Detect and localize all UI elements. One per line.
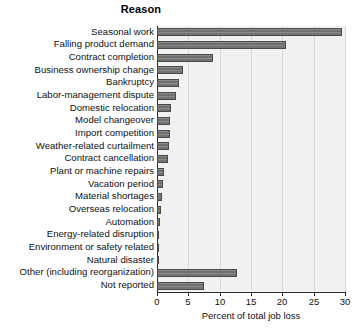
x-tick-label: 0 (154, 296, 159, 307)
gridline (251, 26, 252, 292)
category-label: Seasonal work (91, 27, 154, 37)
bar (157, 66, 183, 74)
category-label: Business ownership change (35, 65, 154, 75)
bar (157, 282, 204, 290)
category-label: Contract cancellation (64, 153, 154, 163)
gridline (282, 26, 283, 292)
category-label: Energy-related disruption (47, 229, 154, 239)
bar (157, 244, 159, 252)
gridline (345, 26, 346, 292)
bar (157, 117, 170, 125)
category-label: Contract completion (69, 52, 154, 62)
bar (157, 79, 179, 87)
x-tick-label: 10 (215, 296, 226, 307)
gridline (314, 26, 315, 292)
category-label: Material shortages (75, 191, 154, 201)
chart-title: Reason (0, 3, 282, 15)
category-label: Other (including reorganization) (20, 267, 154, 277)
bar (157, 206, 161, 214)
category-label: Weather-related curtailment (36, 141, 154, 151)
x-axis-label: Percent of total job loss (157, 310, 345, 321)
x-tick-label: 15 (246, 296, 257, 307)
category-label: Bankruptcy (106, 77, 154, 87)
bar (157, 180, 163, 188)
category-label: Natural disaster (87, 255, 154, 265)
bar (157, 193, 162, 201)
bar (157, 104, 171, 112)
bar-chart-figure: Reason 051015202530 Seasonal workFalling… (0, 0, 358, 329)
bar (157, 155, 168, 163)
bar (157, 54, 213, 62)
bar (157, 168, 164, 176)
gridline (220, 26, 221, 292)
category-label: Overseas relocation (69, 204, 154, 214)
bar (157, 269, 237, 277)
category-label: Not reported (101, 280, 154, 290)
bar (157, 231, 159, 239)
x-tick-label: 20 (277, 296, 288, 307)
category-label: Model changeover (75, 115, 154, 125)
category-label: Vacation period (88, 179, 154, 189)
x-tick-label: 25 (309, 296, 320, 307)
bar (157, 92, 176, 100)
x-tick-label: 5 (185, 296, 190, 307)
bar (157, 256, 159, 264)
bar (157, 130, 170, 138)
x-tick-label: 30 (340, 296, 351, 307)
category-label: Labor-management dispute (37, 90, 154, 100)
bar (157, 28, 342, 36)
category-label: Automation (105, 217, 154, 227)
bar (157, 218, 160, 226)
category-label: Plant or machine repairs (50, 166, 154, 176)
category-label: Domestic relocation (70, 103, 154, 113)
gridline (188, 26, 189, 292)
category-label: Environment or safety related (29, 242, 154, 252)
category-label: Import competition (75, 128, 154, 138)
bar (157, 41, 286, 49)
bar (157, 142, 169, 150)
category-label: Falling product demand (54, 39, 154, 49)
